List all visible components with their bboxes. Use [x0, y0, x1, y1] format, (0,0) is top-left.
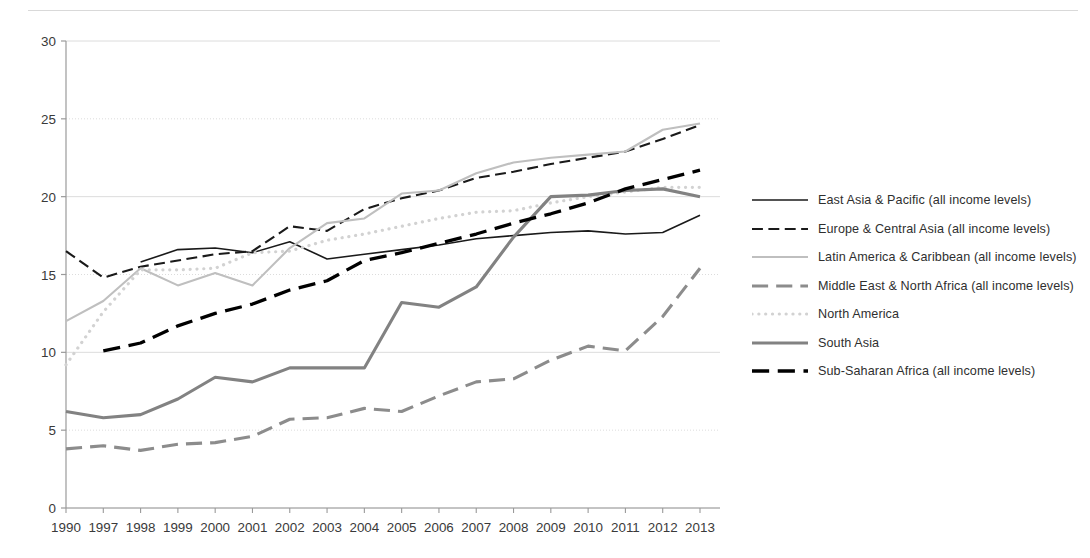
- series-line-5: [66, 189, 700, 418]
- y-tick-label: 20: [41, 190, 56, 205]
- y-tick-label: 25: [41, 112, 56, 127]
- legend-item-label: Europe & Central Asia (all income levels…: [818, 222, 1050, 236]
- x-tick-label: 2006: [424, 520, 454, 535]
- x-tick-label: 2004: [349, 520, 379, 535]
- x-tick-label: 2008: [499, 520, 529, 535]
- legend-key-icon: [752, 251, 808, 263]
- legend-item-label: East Asia & Pacific (all income levels): [818, 193, 1031, 207]
- x-tick-label: 2005: [387, 520, 417, 535]
- legend-item-label: South Asia: [818, 336, 879, 350]
- legend-key-icon: [752, 308, 808, 320]
- legend-item-label: Sub-Saharan Africa (all income levels): [818, 364, 1035, 378]
- x-tick-label: 2009: [536, 520, 566, 535]
- legend-item[interactable]: South Asia: [752, 329, 1090, 358]
- legend-item-label: North America: [818, 307, 899, 321]
- legend-item[interactable]: Middle East & North Africa (all income l…: [752, 272, 1090, 301]
- x-tick-label: 1990: [51, 520, 81, 535]
- legend-item-label: Middle East & North Africa (all income l…: [818, 279, 1074, 293]
- x-tick-label: 2013: [685, 520, 715, 535]
- chart-legend: East Asia & Pacific (all income levels)E…: [752, 186, 1090, 386]
- y-tick-label: 0: [49, 501, 56, 516]
- y-tick-label: 30: [41, 34, 56, 49]
- series-line-2: [66, 124, 700, 322]
- legend-item-label: Latin America & Caribbean (all income le…: [818, 250, 1077, 264]
- x-tick-label: 2007: [461, 520, 491, 535]
- y-tick-label: 15: [41, 268, 56, 283]
- series-line-0: [141, 215, 700, 262]
- x-tick-label: 2011: [611, 520, 640, 535]
- x-tick-label: 2001: [238, 520, 268, 535]
- legend-item[interactable]: Europe & Central Asia (all income levels…: [752, 215, 1090, 244]
- x-tick-label: 1999: [163, 520, 193, 535]
- y-tick-label: 10: [41, 345, 56, 360]
- x-tick-label: 2003: [312, 520, 342, 535]
- legend-item[interactable]: Latin America & Caribbean (all income le…: [752, 243, 1090, 272]
- y-tick-label: 5: [49, 423, 56, 438]
- legend-item[interactable]: North America: [752, 300, 1090, 329]
- chart-page: 0510152025301990199719981999200020012002…: [0, 0, 1090, 558]
- legend-key-icon: [752, 194, 808, 206]
- x-tick-label: 2000: [200, 520, 230, 535]
- legend-key-icon: [752, 223, 808, 235]
- legend-key-icon: [752, 280, 808, 292]
- x-tick-label: 2012: [648, 520, 678, 535]
- x-tick-label: 2010: [573, 520, 603, 535]
- x-tick-label: 1998: [126, 520, 156, 535]
- legend-item[interactable]: East Asia & Pacific (all income levels): [752, 186, 1090, 215]
- series-line-3: [66, 268, 700, 450]
- legend-key-icon: [752, 337, 808, 349]
- legend-key-icon: [752, 365, 808, 377]
- legend-item[interactable]: Sub-Saharan Africa (all income levels): [752, 357, 1090, 386]
- x-tick-label: 2002: [275, 520, 305, 535]
- x-tick-label: 1997: [88, 520, 118, 535]
- line-chart: 0510152025301990199719981999200020012002…: [0, 0, 760, 558]
- chart-svg: 0510152025301990199719981999200020012002…: [0, 0, 760, 558]
